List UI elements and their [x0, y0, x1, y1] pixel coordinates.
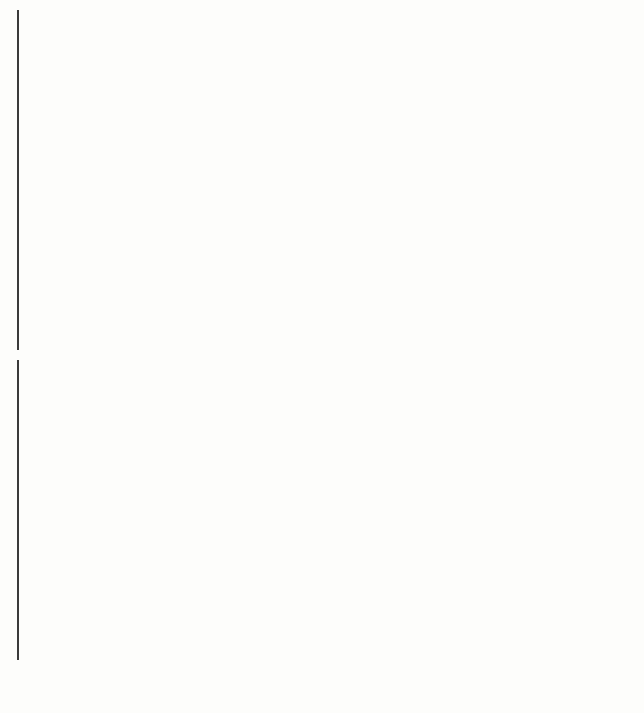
- bode-figure: [0, 0, 644, 713]
- left-margin-rule-top: [17, 10, 19, 350]
- bode-plots-svg: [0, 0, 644, 684]
- left-margin-rule-bottom: [17, 360, 19, 660]
